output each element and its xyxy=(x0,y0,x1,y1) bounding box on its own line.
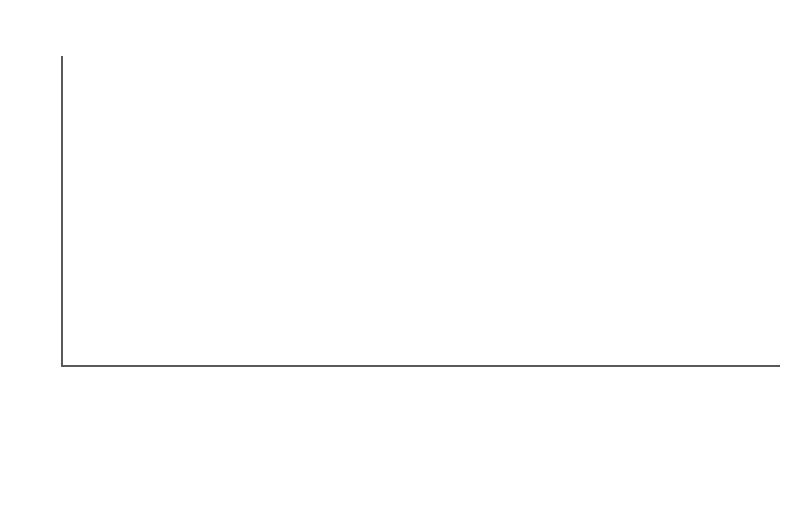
plot-area xyxy=(0,0,798,519)
x-axis-line xyxy=(61,365,780,367)
y-axis-line xyxy=(61,56,63,366)
bar-chart xyxy=(0,0,798,519)
